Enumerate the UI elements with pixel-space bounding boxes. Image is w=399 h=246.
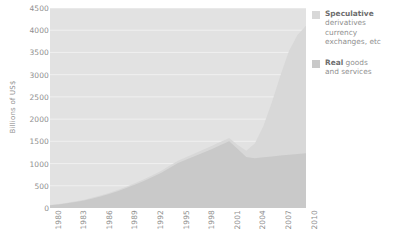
- legend-entry[interactable]: Real goodsand services: [312, 58, 398, 77]
- legend-swatch-icon: [312, 11, 320, 19]
- legend-subline: currency: [325, 28, 398, 37]
- y-axis-title: Billions of US$: [9, 47, 17, 167]
- x-tick-label: 2004: [258, 210, 267, 230]
- y-tick-label: 1500: [30, 137, 50, 146]
- y-tick-label: 4000: [30, 26, 50, 35]
- y-tick-label: 1000: [30, 159, 50, 168]
- legend-inline-text: goods: [343, 58, 368, 67]
- x-tick-label: 1986: [105, 210, 114, 230]
- x-tick-label: 1998: [207, 210, 216, 230]
- x-tick-label: 1995: [182, 210, 191, 230]
- legend-title: Speculative: [325, 9, 374, 18]
- legend-text: Real goodsand services: [325, 58, 398, 77]
- y-tick-label: 500: [34, 181, 49, 190]
- x-tick-label: 1992: [156, 210, 165, 230]
- x-tick-label: 1989: [130, 210, 139, 230]
- y-tick-label: 3000: [30, 70, 50, 79]
- legend-title: Real: [325, 58, 343, 67]
- legend-swatch-icon: [312, 60, 320, 68]
- area-chart: Billions of US$ 450040003500300025002000…: [0, 0, 399, 246]
- legend-subline: and services: [325, 67, 398, 76]
- legend-entry[interactable]: Speculativederivativescurrencyexchanges,…: [312, 9, 398, 47]
- legend-text: Speculativederivativescurrencyexchanges,…: [325, 9, 398, 47]
- y-tick-label: 4500: [30, 4, 50, 13]
- x-tick-label: 2007: [284, 210, 293, 230]
- x-tick-label: 2001: [233, 210, 242, 230]
- x-tick-label: 1980: [54, 210, 63, 230]
- plot-area: [50, 8, 306, 208]
- y-tick-label: 2000: [30, 115, 50, 124]
- legend-subline: exchanges, etc: [325, 37, 398, 46]
- legend-subline: derivatives: [325, 18, 398, 27]
- y-tick-label: 2500: [30, 92, 50, 101]
- x-axis-tick-labels: 1980198319861989199219951998200120042007…: [0, 208, 399, 246]
- chart-legend: Speculativederivativescurrencyexchanges,…: [312, 9, 398, 87]
- x-tick-label: 1983: [79, 210, 88, 230]
- plot-svg: [50, 8, 306, 208]
- y-tick-label: 3500: [30, 48, 50, 57]
- x-tick-label: 2010: [310, 210, 319, 230]
